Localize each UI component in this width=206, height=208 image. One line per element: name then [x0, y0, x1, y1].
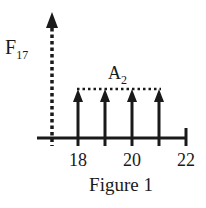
arrowhead-icon	[73, 89, 83, 102]
sequence-label: A2	[108, 63, 127, 88]
arrowhead-icon	[100, 89, 110, 102]
figure-caption: Figure 1	[0, 174, 206, 196]
vertical-axis-arrowhead-icon	[46, 12, 58, 28]
x-tick-label-18: 18	[69, 150, 87, 171]
y-axis-label: F17	[5, 36, 28, 63]
arrowhead-icon	[154, 89, 164, 102]
x-tick-label-22: 22	[177, 150, 195, 171]
arrowhead-icon	[127, 89, 137, 102]
x-tick-label-20: 20	[123, 150, 141, 171]
